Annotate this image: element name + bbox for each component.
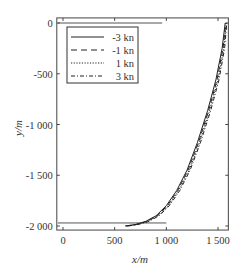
y-axis-label: y/m	[12, 120, 24, 137]
x-tick-label: 0	[60, 235, 65, 246]
legend-label: 1 kn	[116, 58, 135, 69]
y-tick-label: -2 000	[26, 221, 53, 232]
series-line-2	[127, 23, 226, 226]
trajectory-chart: 05001 0001 500 0-500-1 000-1 500-2 000 x…	[0, 0, 242, 277]
x-tick-label: 1 000	[155, 235, 179, 246]
x-tick-label: 1 500	[206, 235, 230, 246]
series-line-3	[128, 23, 227, 226]
legend-label: 3 kn	[116, 71, 135, 82]
x-tick-label: 500	[107, 235, 123, 246]
x-axis-label: x/m	[131, 253, 148, 265]
series-lines	[125, 23, 227, 226]
y-tick-label: -500	[34, 69, 53, 80]
y-tick-label: 0	[48, 18, 53, 29]
legend: -3 kn-1 kn1 kn3 kn	[67, 27, 138, 83]
y-tick-label: -1 500	[26, 170, 53, 181]
legend-label: -3 kn	[112, 32, 135, 43]
y-tick-label: -1 000	[26, 120, 53, 131]
series-line-1	[126, 23, 226, 226]
legend-label: -1 kn	[112, 45, 135, 56]
